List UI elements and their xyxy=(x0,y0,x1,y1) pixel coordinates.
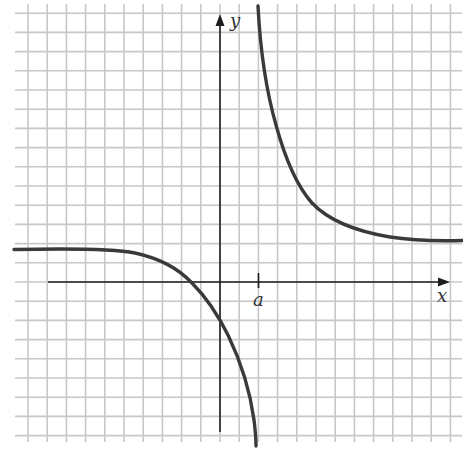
y-axis-arrow-icon xyxy=(216,14,225,26)
axes xyxy=(48,14,450,432)
grid xyxy=(15,4,462,442)
y-axis-label: y xyxy=(229,10,241,31)
x-axis-label: x xyxy=(437,285,447,306)
function-graph: y x a xyxy=(0,0,463,450)
tick-a-label: a xyxy=(253,289,264,310)
